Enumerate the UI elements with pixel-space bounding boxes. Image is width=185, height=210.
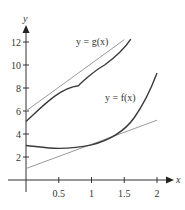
y-tick-label: 6 [16, 106, 21, 117]
x-tick-label: 0.5 [53, 188, 66, 199]
y-tick-label: 10 [11, 60, 21, 71]
x-tick-label: 1.5 [118, 188, 131, 199]
function-plot: 0.5 1 1.5 2 2 4 6 8 10 12 x y y = g(x) y… [0, 0, 185, 210]
curve-f [26, 73, 157, 148]
y-tick-label: 12 [11, 37, 21, 48]
y-tick-label: 8 [16, 83, 21, 94]
y-tick-label: 2 [16, 152, 21, 163]
curve-g [26, 39, 131, 121]
x-tick-label: 1 [89, 188, 94, 199]
g-curve-label: y = g(x) [76, 36, 108, 48]
x-axis-arrow-icon [166, 177, 174, 184]
axes [8, 25, 174, 192]
y-axis-label: y [22, 13, 28, 24]
f-curve-label: y = f(x) [105, 92, 136, 104]
y-axis-arrow-icon [23, 25, 30, 33]
x-tick-label: 2 [155, 188, 160, 199]
x-axis-label: x [175, 174, 181, 185]
y-tick-label: 4 [16, 129, 21, 140]
